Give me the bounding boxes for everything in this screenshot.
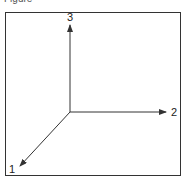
axis-1-label: 1	[9, 163, 15, 175]
axis-3: 3	[67, 11, 73, 112]
axes-diagram: 3 2 1	[0, 0, 188, 184]
axis-3-label: 3	[67, 11, 73, 23]
axis-2-label: 2	[171, 106, 177, 118]
axis-2: 2	[70, 106, 177, 118]
axis-1: 1	[9, 112, 70, 175]
